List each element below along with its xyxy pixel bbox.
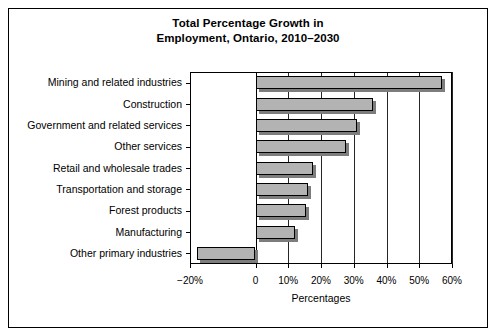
chart-title-line-2: Employment, Ontario, 2010–2030 bbox=[0, 31, 496, 46]
bar-row: Construction bbox=[190, 98, 452, 111]
x-tick-mark-1 bbox=[256, 264, 257, 268]
bar-row: Mining and related industries bbox=[190, 76, 452, 89]
bar-row: Forest products bbox=[190, 204, 452, 217]
x-tick-mark-2 bbox=[288, 264, 289, 268]
y-tick-mark-5 bbox=[186, 189, 190, 190]
y-tick-mark-6 bbox=[186, 211, 190, 212]
bar bbox=[256, 119, 358, 132]
gridline-60 bbox=[452, 72, 453, 264]
category-label: Manufacturing bbox=[115, 226, 182, 239]
chart-figure: Total Percentage Growth in Employment, O… bbox=[0, 0, 496, 336]
y-tick-mark-1 bbox=[186, 104, 190, 105]
bar-row: Manufacturing bbox=[190, 226, 452, 239]
x-tick-mark-4 bbox=[354, 264, 355, 268]
x-tick-label-1: 0 bbox=[253, 275, 259, 286]
category-label: Forest products bbox=[109, 204, 182, 217]
category-label: Construction bbox=[123, 98, 182, 111]
bar bbox=[256, 76, 443, 89]
category-label: Other primary industries bbox=[70, 247, 182, 260]
x-tick-label-0: −20% bbox=[177, 275, 203, 286]
y-tick-mark-3 bbox=[186, 147, 190, 148]
y-tick-mark-4 bbox=[186, 168, 190, 169]
category-label: Government and related services bbox=[27, 119, 182, 132]
bar-row: Other services bbox=[190, 140, 452, 153]
bar bbox=[256, 183, 308, 196]
bar bbox=[256, 140, 346, 153]
y-tick-mark-7 bbox=[186, 232, 190, 233]
chart-title: Total Percentage Growth in Employment, O… bbox=[0, 16, 496, 46]
bar-row: Other primary industries bbox=[190, 247, 452, 260]
category-label: Other services bbox=[114, 140, 182, 153]
bar-row: Government and related services bbox=[190, 119, 452, 132]
x-tick-label-6: 50% bbox=[409, 275, 429, 286]
bar bbox=[197, 247, 256, 260]
x-tick-mark-5 bbox=[387, 264, 388, 268]
category-label: Retail and wholesale trades bbox=[53, 162, 182, 175]
plot-area: −20%010%20%30%40%50%60% Mining and relat… bbox=[190, 72, 452, 264]
x-axis-label: Percentages bbox=[190, 292, 452, 304]
category-label: Mining and related industries bbox=[48, 76, 182, 89]
bar bbox=[256, 98, 374, 111]
bar bbox=[256, 226, 295, 239]
x-tick-mark-7 bbox=[452, 264, 453, 268]
y-tick-mark-2 bbox=[186, 125, 190, 126]
x-tick-mark-3 bbox=[321, 264, 322, 268]
x-tick-label-7: 60% bbox=[442, 275, 462, 286]
x-tick-label-3: 20% bbox=[311, 275, 331, 286]
bar bbox=[256, 162, 313, 175]
x-tick-label-4: 30% bbox=[344, 275, 364, 286]
y-tick-mark-0 bbox=[186, 83, 190, 84]
category-label: Transportation and storage bbox=[56, 183, 182, 196]
bar-row: Transportation and storage bbox=[190, 183, 452, 196]
bar-row: Retail and wholesale trades bbox=[190, 162, 452, 175]
x-tick-label-5: 40% bbox=[376, 275, 396, 286]
y-tick-mark-8 bbox=[186, 253, 190, 254]
x-tick-label-2: 10% bbox=[278, 275, 298, 286]
bar bbox=[256, 204, 307, 217]
x-tick-mark-6 bbox=[419, 264, 420, 268]
chart-title-line-1: Total Percentage Growth in bbox=[172, 17, 323, 29]
x-tick-mark-0 bbox=[190, 264, 191, 268]
